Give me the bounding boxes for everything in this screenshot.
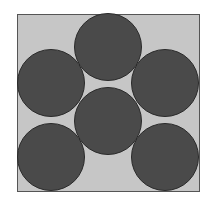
circle-middle-right <box>132 50 199 117</box>
circle-bottom-left <box>18 124 85 191</box>
circle-middle-left <box>18 50 85 117</box>
circle-packing-diagram <box>0 0 209 201</box>
circle-bottom-right <box>132 124 199 191</box>
circle-center <box>75 88 142 155</box>
circle-top-center <box>75 14 142 81</box>
